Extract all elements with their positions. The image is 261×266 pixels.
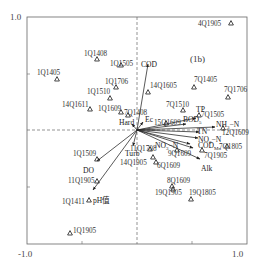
triangle-marker-icon xyxy=(146,90,151,94)
point-label: 6Q1609 xyxy=(157,162,181,170)
point-label: 1Q1408 xyxy=(84,50,108,58)
point-label: 15Q1609 xyxy=(154,119,181,127)
point-label: 1Q1411 xyxy=(62,198,85,206)
point-label: 1Q1509 xyxy=(73,150,97,158)
point-label: 1Q1505 xyxy=(110,60,134,68)
point-label: 11Q1708 xyxy=(130,145,157,153)
triangle-marker-icon xyxy=(68,231,73,235)
point-label: 12Q1609 xyxy=(222,129,249,137)
vector-label-bod5: BOD5 xyxy=(183,115,202,125)
vector-label-hard: Hard xyxy=(119,118,134,127)
vector-label-do: DO xyxy=(83,166,94,175)
triangle-marker-icon xyxy=(151,155,156,159)
point-label: 1Q1405 xyxy=(37,69,61,77)
point-label: 14Q1905 xyxy=(120,159,147,167)
y-axis-max-label: 1.0 xyxy=(10,12,22,22)
point-label: 7Q1805 xyxy=(219,143,243,151)
point-label: 7Q1408 xyxy=(124,109,148,117)
x-axis-max-label: 1.0 xyxy=(232,249,244,259)
x-axis-min-label: -1.0 xyxy=(18,249,33,259)
point-label: 7Q1905 xyxy=(204,152,228,160)
rda-biplot: 1.0 -1.0 1.0 (1b) COD Ec Hard TP BOD5 NH… xyxy=(0,0,261,266)
triangle-marker-icon xyxy=(55,77,60,81)
triangle-marker-icon xyxy=(192,85,197,89)
panel-label: (1b) xyxy=(190,54,205,64)
triangle-marker-icon xyxy=(87,198,92,202)
vector-label-cod: COD xyxy=(141,60,158,69)
point-label: 1Q1510 xyxy=(87,88,111,96)
point-label: 14Q1611 xyxy=(62,101,89,109)
triangle-marker-icon xyxy=(226,95,231,99)
point-label: 19Q1905 xyxy=(155,189,182,197)
triangle-marker-icon xyxy=(108,96,113,100)
triangle-marker-icon xyxy=(229,21,234,25)
point-label: 11Q1905 xyxy=(68,177,95,185)
vector-label-alk: Alk xyxy=(201,164,213,173)
point-label: 7Q1706 xyxy=(224,86,248,94)
triangle-marker-icon xyxy=(95,179,100,183)
point-label: 4Q1905 xyxy=(198,20,222,28)
vector-label-ph: pH值 xyxy=(93,195,110,205)
point-label: 19Q1805 xyxy=(189,189,216,197)
point-label: 9Q1609 xyxy=(168,150,192,158)
point-label: 8Q1609 xyxy=(167,177,191,185)
triangle-marker-icon xyxy=(189,197,194,201)
point-label: 7Q1405 xyxy=(194,76,218,84)
point-label: 1Q1609 xyxy=(98,105,122,113)
point-label: 14Q1605 xyxy=(150,82,177,90)
point-label: 7Q1505 xyxy=(201,111,225,119)
point-label: 1Q1905 xyxy=(73,227,97,235)
point-label: 1Q1706 xyxy=(105,78,129,86)
point-label: 7Q1510 xyxy=(166,101,190,109)
